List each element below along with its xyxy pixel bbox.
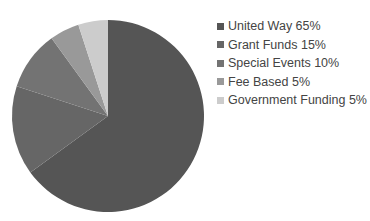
legend-label: Special Events 10% bbox=[228, 56, 339, 70]
legend-swatch bbox=[217, 78, 224, 85]
legend-swatch bbox=[217, 23, 224, 30]
legend-swatch bbox=[217, 60, 224, 67]
legend-label: Government Funding 5% bbox=[228, 93, 367, 107]
legend-item-special-events: Special Events 10% bbox=[217, 54, 367, 73]
chart-legend: United Way 65% Grant Funds 15% Special E… bbox=[217, 17, 367, 110]
legend-label: Grant Funds 15% bbox=[228, 38, 326, 52]
legend-item-fee-based: Fee Based 5% bbox=[217, 73, 367, 92]
legend-swatch bbox=[217, 97, 224, 104]
legend-item-government-funding: Government Funding 5% bbox=[217, 91, 367, 110]
legend-label: United Way 65% bbox=[228, 19, 321, 33]
legend-label: Fee Based 5% bbox=[228, 75, 310, 89]
legend-swatch bbox=[217, 41, 224, 48]
legend-item-grant-funds: Grant Funds 15% bbox=[217, 36, 367, 55]
legend-item-united-way: United Way 65% bbox=[217, 17, 367, 36]
